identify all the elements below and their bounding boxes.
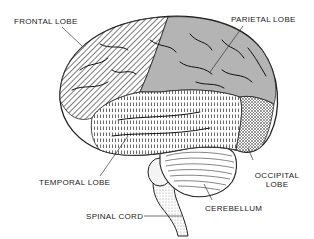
frontal-lobe-label: FRONTAL LOBE	[14, 17, 78, 26]
brain-diagram: FRONTAL LOBE PARIETAL LOBE TEMPORAL LOBE…	[0, 0, 314, 239]
occipital-lobe-label: OCCIPITAL LOBE	[252, 171, 302, 189]
temporal-lobe-label: TEMPORAL LOBE	[39, 178, 110, 187]
occipital-label-line2: LOBE	[252, 180, 302, 189]
occipital-lobe-region	[236, 96, 274, 152]
temporal-lobe-region	[91, 90, 241, 155]
cerebellum-label: CEREBELLUM	[205, 204, 262, 213]
occipital-label-line1: OCCIPITAL	[252, 171, 302, 180]
spinal-cord-label: SPINAL CORD	[86, 212, 143, 221]
brain-illustration	[0, 0, 314, 239]
parietal-lobe-label: PARIETAL LOBE	[231, 15, 296, 24]
frontal-leader	[62, 27, 82, 46]
